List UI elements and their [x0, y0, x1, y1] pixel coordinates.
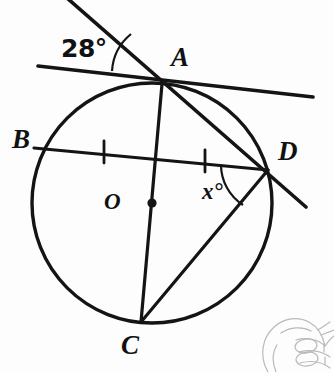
angle-arc-x	[221, 165, 243, 205]
center-dot	[147, 198, 156, 207]
hand-sketch-artifact	[263, 319, 334, 372]
chord-bd	[34, 148, 268, 170]
geometry-figure: A B C D O 28° x°	[0, 0, 334, 372]
secant-line-ad	[67, 0, 306, 207]
label-angle-x-degrees: x°	[202, 180, 223, 203]
label-angle-28-degrees: 28°	[61, 36, 107, 61]
geometry-diagram-canvas	[0, 0, 334, 372]
label-point-d: D	[278, 138, 298, 165]
label-point-b: B	[12, 126, 30, 153]
label-point-c: C	[121, 332, 139, 359]
label-point-a: A	[171, 44, 189, 71]
label-center-o: O	[104, 190, 121, 213]
